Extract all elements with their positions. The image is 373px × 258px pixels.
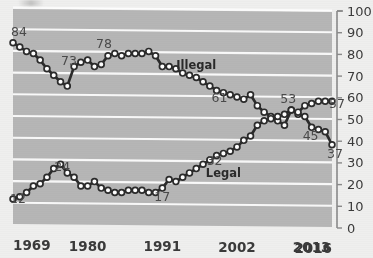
data-point-marker: [241, 96, 247, 102]
data-point-marker: [58, 79, 64, 85]
data-point-marker: [24, 49, 30, 55]
data-point-marker: [51, 72, 57, 78]
data-point-marker: [119, 53, 125, 59]
data-point-marker: [44, 66, 50, 72]
data-point-marker: [316, 98, 322, 104]
data-point-marker: [146, 190, 152, 196]
x-axis-tick-label: 1980: [69, 238, 107, 254]
data-point-marker: [119, 190, 125, 196]
data-point-marker: [98, 185, 104, 191]
y-axis-tick-label: 40: [347, 134, 364, 149]
series-annotation-illegal: Illegal: [176, 58, 216, 72]
data-point-marker: [30, 183, 36, 189]
data-point-marker: [132, 187, 138, 193]
data-point-value-label: 57: [329, 96, 345, 111]
data-point-marker: [10, 40, 16, 46]
y-axis-tick-label: 60: [347, 90, 364, 105]
data-point-marker: [193, 166, 199, 172]
data-point-marker: [159, 64, 165, 70]
data-point-marker: [254, 103, 260, 109]
data-point-marker: [166, 64, 172, 70]
y-axis-tick-label: 90: [347, 25, 364, 40]
data-point-marker: [288, 107, 294, 113]
data-point-marker: [44, 174, 50, 180]
data-point-marker: [85, 183, 91, 189]
data-point-value-label: 84: [11, 24, 27, 39]
data-point-marker: [78, 183, 84, 189]
data-point-value-label: 45: [303, 128, 319, 143]
data-point-marker: [193, 75, 199, 81]
data-point-marker: [153, 53, 159, 59]
line-chart: 0102030405060708090100 19691980199120022…: [0, 0, 373, 258]
y-axis-tick-label: 70: [347, 69, 364, 84]
data-point-marker: [98, 62, 104, 68]
y-axis-tick-label: 10: [347, 199, 364, 214]
data-point-marker: [125, 187, 131, 193]
data-point-marker: [248, 92, 254, 98]
data-point-marker: [241, 137, 247, 143]
data-point-marker: [275, 114, 281, 120]
data-point-marker: [322, 129, 328, 135]
data-point-value-label: 73: [61, 53, 77, 68]
data-point-marker: [227, 148, 233, 154]
data-point-marker: [85, 57, 91, 63]
x-axis-tick-label: 2016: [294, 240, 332, 256]
data-point-marker: [295, 109, 301, 115]
data-point-marker: [173, 179, 179, 185]
data-point-marker: [227, 92, 233, 98]
data-point-marker: [248, 133, 254, 139]
y-axis-tick-label: 80: [347, 47, 364, 62]
data-point-marker: [180, 174, 186, 180]
x-axis-tick-label: 1991: [144, 238, 182, 254]
data-point-marker: [71, 174, 77, 180]
y-axis-tick-label: 30: [347, 155, 364, 170]
data-point-marker: [92, 179, 98, 185]
data-point-value-label: 61: [211, 90, 227, 105]
data-point-value-label: 53: [280, 91, 296, 106]
data-point-marker: [37, 181, 43, 187]
data-point-marker: [78, 59, 84, 65]
data-point-marker: [105, 187, 111, 193]
data-point-marker: [268, 116, 274, 122]
data-point-marker: [139, 51, 145, 57]
y-axis-tick-label: 50: [347, 112, 364, 127]
data-point-marker: [37, 57, 43, 63]
data-point-marker: [139, 187, 145, 193]
series-annotation-legal: Legal: [206, 166, 241, 180]
data-point-marker: [112, 51, 118, 57]
data-point-marker: [92, 64, 98, 70]
data-point-marker: [302, 114, 308, 120]
data-point-marker: [302, 103, 308, 109]
y-axis-tick-label: 0: [347, 221, 355, 236]
data-point-marker: [132, 51, 138, 57]
data-point-marker: [187, 72, 193, 78]
data-point-marker: [282, 111, 288, 117]
data-point-value-label: 78: [96, 36, 112, 51]
chart-canvas: 0102030405060708090100 19691980199120022…: [0, 0, 373, 258]
data-point-marker: [234, 144, 240, 150]
data-point-marker: [64, 83, 70, 89]
data-point-marker: [166, 177, 172, 183]
x-axis-tick-label: 2002: [218, 239, 256, 255]
data-point-marker: [17, 44, 23, 50]
data-point-marker: [125, 51, 131, 57]
data-point-marker: [146, 49, 152, 55]
data-point-value-label: 24: [54, 159, 70, 174]
data-point-marker: [322, 98, 328, 104]
data-point-marker: [261, 109, 267, 115]
data-point-marker: [105, 53, 111, 59]
y-axis-tick-label: 100: [347, 4, 372, 19]
data-point-marker: [200, 79, 206, 85]
data-point-marker: [309, 101, 315, 107]
data-point-marker: [30, 51, 36, 57]
x-axis-tick-label: 1969: [13, 237, 51, 253]
y-axis-tick-label: 20: [347, 177, 364, 192]
data-point-marker: [254, 122, 260, 128]
data-point-marker: [187, 170, 193, 176]
data-point-marker: [234, 94, 240, 100]
data-point-marker: [207, 83, 213, 89]
data-point-marker: [261, 118, 267, 124]
data-point-value-label: 37: [327, 146, 343, 161]
data-point-marker: [282, 122, 288, 128]
data-point-marker: [112, 190, 118, 196]
